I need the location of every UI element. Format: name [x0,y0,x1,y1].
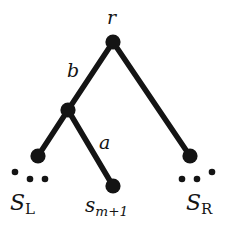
edge-label-b-text: b [67,59,79,81]
tree-diagram-figure: r b a SL sm+1 SR [0,0,238,234]
middle-leaf-base: s [85,193,95,217]
edge-group [38,42,190,186]
left-subtree-label: SL [10,192,35,217]
middle-leaf-subscript: m+1 [95,205,128,219]
ellipsis-dot [179,176,186,183]
middle-leaf-node [105,178,120,193]
edge-label-a: a [99,133,110,152]
root-label: r [107,8,116,27]
edge-label-a-text: a [99,131,110,153]
edge-internal-to-left-leaf [38,110,68,156]
right-subtree-subscript: R [201,202,212,217]
ellipsis-dot [194,176,201,183]
ellipsis-dot [27,176,34,183]
right-ellipsis-dots [179,169,216,183]
ellipsis-dot [12,169,19,176]
left-subtree-base: S [10,190,25,215]
ellipsis-dot [42,176,49,183]
root-node-r [105,34,120,49]
edge-label-b: b [67,61,79,80]
right-subtree-label: SR [186,192,212,217]
right-subtree-base: S [186,190,201,215]
node-group [30,34,197,193]
left-ellipsis-dots [12,169,49,183]
middle-leaf-label: sm+1 [85,195,128,218]
left-leaf-node [30,148,45,163]
right-leaf-node [182,148,197,163]
edge-root-to-right-leaf [113,42,190,156]
ellipsis-dot [209,169,216,176]
root-label-text: r [107,6,116,28]
left-subtree-subscript: L [25,202,35,217]
internal-node [60,102,75,117]
